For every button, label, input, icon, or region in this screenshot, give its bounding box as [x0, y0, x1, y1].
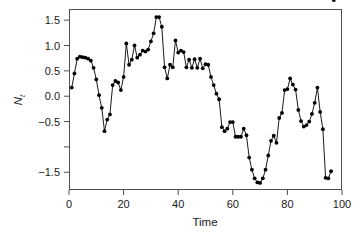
data-point-marker	[220, 125, 224, 129]
data-point-marker	[138, 53, 142, 57]
x-tick-label: 80	[281, 198, 293, 210]
data-point-marker	[329, 169, 333, 173]
data-point-marker	[245, 133, 249, 137]
data-point-marker	[103, 129, 107, 133]
data-point-marker	[318, 110, 322, 114]
x-tick-label: 60	[227, 198, 239, 210]
time-series-chart: 020406080100 1.51.00.50.0−0.5−1.5 Time N…	[0, 0, 361, 235]
data-point-marker	[310, 112, 314, 116]
x-tick-label: 0	[66, 198, 72, 210]
data-point-marker	[160, 25, 164, 29]
data-point-marker	[193, 57, 197, 61]
data-point-marker	[277, 116, 281, 120]
data-point-marker	[94, 78, 98, 82]
data-point-marker	[258, 181, 262, 185]
data-point-marker	[250, 168, 254, 172]
data-point-marker	[242, 127, 246, 131]
data-point-marker	[100, 106, 104, 110]
data-point-marker	[305, 123, 309, 127]
data-point-marker	[89, 59, 93, 63]
y-tick-label: 1.0	[45, 40, 60, 52]
data-point-marker	[127, 63, 131, 67]
data-point-marker	[264, 168, 268, 172]
data-point-marker	[201, 66, 205, 70]
y-tick-label: −0.5	[38, 116, 60, 128]
x-tick-label: 40	[172, 198, 184, 210]
y-tick-label: −1.5	[38, 166, 60, 178]
data-point-marker	[313, 101, 317, 105]
y-tick-label: 1.5	[45, 14, 60, 26]
data-point-marker	[212, 83, 216, 87]
data-point-marker	[187, 58, 191, 62]
data-point-marker	[209, 75, 213, 79]
data-point-marker	[195, 66, 199, 70]
data-point-marker	[174, 39, 178, 43]
data-point-marker	[130, 58, 134, 62]
data-point-marker	[225, 127, 229, 131]
x-axis-title: Time	[192, 216, 217, 228]
y-tick-label: 0.5	[45, 65, 60, 77]
data-point-marker	[217, 97, 221, 101]
data-point-marker	[231, 120, 235, 124]
data-point-marker	[321, 127, 325, 131]
data-point-marker	[119, 88, 123, 92]
data-point-marker	[269, 139, 273, 143]
data-point-marker	[275, 141, 279, 145]
data-point-marker	[316, 86, 320, 90]
data-point-marker	[105, 118, 109, 122]
data-point-marker	[152, 31, 156, 35]
data-point-marker	[239, 135, 243, 139]
data-point-marker	[116, 81, 120, 85]
data-point-marker	[190, 66, 194, 70]
data-point-marker	[92, 66, 96, 70]
data-point-marker	[294, 88, 298, 92]
data-point-marker	[157, 15, 161, 19]
data-point-marker	[163, 65, 167, 69]
data-point-marker	[280, 111, 284, 115]
data-point-marker	[122, 75, 126, 79]
data-point-marker	[70, 86, 74, 90]
data-point-marker	[215, 92, 219, 96]
data-point-marker	[108, 113, 112, 117]
data-point-marker	[73, 71, 77, 75]
data-point-marker	[206, 63, 210, 67]
data-point-marker	[299, 119, 303, 123]
data-point-marker	[135, 56, 139, 60]
data-point-marker	[288, 77, 292, 81]
data-point-marker	[266, 154, 270, 158]
data-point-marker	[286, 87, 290, 91]
y-tick-label: 0.0	[45, 90, 60, 102]
data-point-marker	[171, 65, 175, 69]
data-point-marker	[146, 48, 150, 52]
data-point-marker	[133, 44, 137, 48]
data-point-marker	[261, 176, 265, 180]
x-tick-label: 20	[117, 198, 129, 210]
x-tick-label: 100	[333, 198, 351, 210]
chart-figure: 020406080100 1.51.00.50.0−0.5−1.5 Time N…	[0, 0, 361, 235]
data-point-marker	[124, 42, 128, 46]
data-point-marker	[97, 93, 101, 97]
data-point-marker	[326, 176, 330, 180]
data-point-marker	[111, 83, 115, 87]
data-point-marker	[307, 120, 311, 124]
data-point-marker	[296, 108, 300, 112]
data-point-marker	[165, 77, 169, 81]
data-point-marker	[247, 156, 251, 160]
data-point-marker	[291, 83, 295, 87]
data-point-marker	[184, 65, 188, 69]
data-point-marker	[149, 40, 153, 44]
data-point-marker	[198, 57, 202, 61]
data-point-marker	[272, 134, 276, 138]
data-point-marker	[253, 176, 257, 180]
data-point-marker	[182, 50, 186, 54]
